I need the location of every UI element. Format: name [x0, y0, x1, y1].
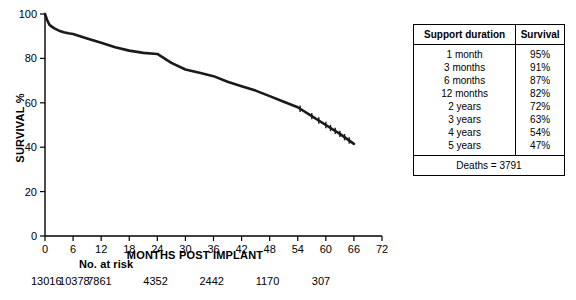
cell-survival: 72% — [516, 100, 564, 113]
risk-value: 7861 — [87, 275, 111, 287]
header-survival: Survival — [516, 25, 564, 45]
axes — [45, 14, 382, 236]
svg-text:20: 20 — [25, 186, 37, 198]
survival-table-row: 1 month95% — [414, 45, 564, 62]
survival-table-row: 3 months91% — [414, 61, 564, 74]
cell-survival: 47% — [516, 139, 564, 155]
risk-table-label: No. at risk — [79, 258, 133, 270]
x-axis-title: MONTHS POST IMPLANT — [0, 249, 390, 261]
survival-chart: 061218243036424854606672020406080100 MON… — [0, 0, 576, 300]
survival-curve — [45, 14, 354, 144]
cell-support-duration: 5 years — [414, 139, 516, 155]
survival-table-row: 3 years63% — [414, 113, 564, 126]
cell-support-duration: 2 years — [414, 100, 516, 113]
cell-survival: 95% — [516, 45, 564, 62]
cell-support-duration: 6 months — [414, 74, 516, 87]
risk-value: 2442 — [200, 275, 224, 287]
cell-support-duration: 3 months — [414, 61, 516, 74]
cell-survival: 54% — [516, 126, 564, 139]
cell-survival: 91% — [516, 61, 564, 74]
cell-support-duration: 4 years — [414, 126, 516, 139]
survival-table-row: 12 months82% — [414, 87, 564, 100]
svg-text:60: 60 — [25, 97, 37, 109]
survival-table-row: 2 years72% — [414, 100, 564, 113]
risk-table-row: 13016103787861435224421170307 — [0, 275, 576, 291]
risk-value: 307 — [312, 275, 330, 287]
risk-value: 13016 — [31, 275, 62, 287]
svg-text:0: 0 — [31, 230, 37, 242]
survival-table-row: 5 years47% — [414, 139, 564, 155]
risk-value: 10378 — [59, 275, 90, 287]
survival-table-header-row: Support duration Survival — [414, 25, 564, 45]
cell-survival: 63% — [516, 113, 564, 126]
cell-support-duration: 1 month — [414, 45, 516, 62]
survival-summary-table: Support duration Survival 1 month95%3 mo… — [413, 24, 565, 176]
deaths-total: Deaths = 3791 — [414, 155, 564, 175]
survival-table-row: 6 months87% — [414, 74, 564, 87]
svg-text:40: 40 — [25, 141, 37, 153]
survival-table-row: 4 years54% — [414, 126, 564, 139]
svg-text:80: 80 — [25, 52, 37, 64]
y-axis-title: SURVIVAL % — [14, 68, 26, 188]
header-support-duration: Support duration — [414, 25, 516, 45]
risk-value: 4352 — [143, 275, 167, 287]
cell-survival: 87% — [516, 74, 564, 87]
svg-text:100: 100 — [19, 8, 37, 20]
cell-support-duration: 12 months — [414, 87, 516, 100]
risk-value: 1170 — [256, 275, 280, 287]
cell-survival: 82% — [516, 87, 564, 100]
cell-support-duration: 3 years — [414, 113, 516, 126]
